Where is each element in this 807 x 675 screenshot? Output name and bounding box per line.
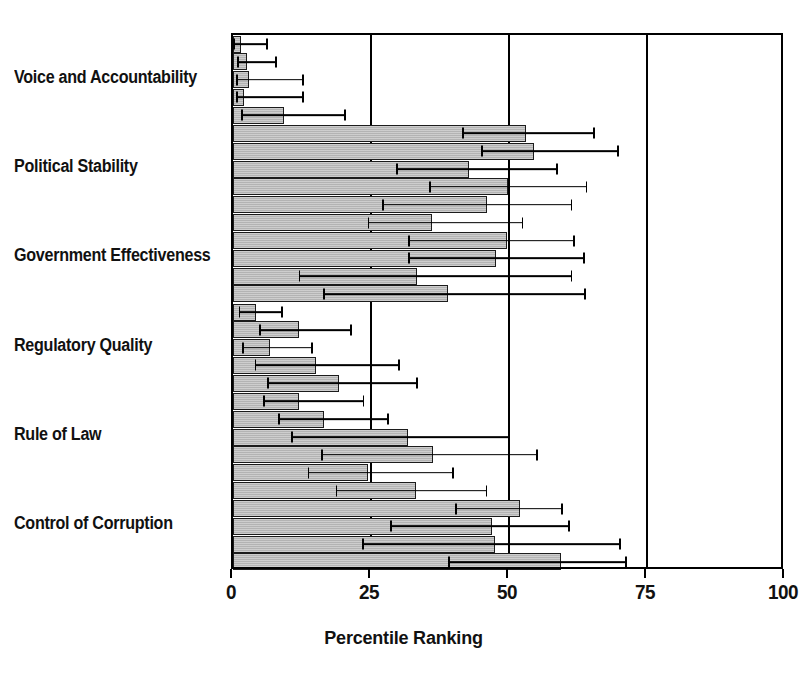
bar-row	[233, 214, 785, 231]
error-bar-cap-high	[302, 92, 304, 103]
error-bar-cap-high	[363, 396, 365, 407]
error-bar-cap-high	[556, 164, 558, 175]
error-bar-cap-high	[593, 128, 595, 139]
error-bar-cap-high	[452, 467, 454, 478]
bar-row	[233, 393, 785, 410]
x-tick-label-75: 75	[635, 580, 655, 604]
error-bar-cap-low	[278, 414, 280, 425]
error-bar-cap-high	[568, 521, 570, 532]
error-bar	[481, 150, 618, 152]
error-bar-cap-low	[396, 164, 398, 175]
bar-row	[233, 339, 785, 356]
bar-row	[233, 36, 785, 53]
error-bar	[362, 543, 621, 545]
error-bar	[323, 293, 586, 295]
error-bar-cap-low	[455, 503, 457, 514]
error-bar-cap-high	[571, 199, 573, 210]
bar-row	[233, 482, 785, 499]
error-bar	[241, 114, 345, 116]
error-bar-cap-low	[255, 360, 257, 371]
category-label-2: Government Effectiveness	[14, 245, 204, 266]
error-bar	[242, 347, 313, 349]
error-bar-cap-low	[236, 74, 238, 85]
error-bar-cap-low	[429, 181, 431, 192]
error-bar	[278, 418, 389, 420]
error-bar-cap-high	[586, 181, 588, 192]
error-bar-cap-low	[462, 128, 464, 139]
error-bar	[462, 133, 594, 135]
error-bar-cap-high	[522, 217, 524, 228]
error-bar	[299, 275, 573, 277]
error-bar-cap-high	[398, 360, 400, 371]
bar-row	[233, 196, 785, 213]
error-bar-cap-low	[362, 539, 364, 550]
category-label-0: Voice and Accountability	[14, 67, 204, 88]
plot-area	[231, 33, 783, 569]
error-bar-cap-low	[267, 378, 269, 389]
error-bar	[267, 382, 418, 384]
error-bar-cap-low	[368, 217, 370, 228]
bar-row	[233, 89, 785, 106]
error-bar-cap-high	[584, 288, 586, 299]
error-bar-cap-low	[233, 39, 235, 50]
error-bar-cap-high	[416, 378, 418, 389]
category-label-5: Control of Corruption	[14, 513, 204, 534]
error-bar-cap-low	[299, 271, 301, 282]
bar-row	[233, 268, 785, 285]
error-bar-cap-high	[266, 39, 268, 50]
error-bar	[263, 401, 364, 403]
error-bar	[236, 97, 304, 99]
bar-row	[233, 285, 785, 302]
governance-indicators-chart: Voice and AccountabilityPolitical Stabil…	[0, 0, 807, 675]
error-bar	[259, 329, 352, 331]
error-bar-cap-low	[263, 396, 265, 407]
error-bar-cap-low	[239, 307, 241, 318]
category-labels-column: Voice and AccountabilityPolitical Stabil…	[14, 0, 220, 675]
bar-row	[233, 357, 785, 374]
error-bar-cap-low	[390, 521, 392, 532]
error-bar-cap-low	[237, 56, 239, 67]
error-bar-cap-high	[387, 414, 389, 425]
error-bar	[239, 311, 283, 313]
error-bar	[429, 186, 587, 188]
bar-row	[233, 250, 785, 267]
bar-row	[233, 446, 785, 463]
error-bar-cap-high	[619, 539, 621, 550]
x-tick-75	[644, 569, 646, 578]
error-bar-cap-high	[625, 556, 627, 567]
error-bar	[382, 204, 572, 206]
category-label-4: Rule of Law	[14, 424, 204, 445]
bar-row	[233, 321, 785, 338]
error-bar	[237, 61, 276, 63]
bar-row	[233, 143, 785, 160]
category-label-3: Regulatory Quality	[14, 335, 204, 356]
x-tick-25	[368, 569, 370, 578]
x-tick-label-50: 50	[497, 580, 517, 604]
error-bar	[291, 436, 510, 438]
error-bar-cap-high	[573, 235, 575, 246]
error-bar	[390, 525, 570, 527]
bar-row	[233, 429, 785, 446]
x-tick-100	[782, 569, 784, 578]
error-bar	[455, 508, 562, 510]
bar-row	[233, 536, 785, 553]
error-bar-cap-low	[336, 485, 338, 496]
error-bar	[233, 43, 268, 45]
error-bar-cap-high	[344, 110, 346, 121]
x-tick-50	[506, 569, 508, 578]
error-bar-cap-high	[536, 449, 538, 460]
error-bar-cap-high	[486, 485, 488, 496]
error-bar-cap-low	[448, 556, 450, 567]
bar-row	[233, 518, 785, 535]
bar-row	[233, 464, 785, 481]
error-bar	[336, 490, 488, 492]
error-bar	[255, 365, 401, 367]
x-tick-0	[230, 569, 232, 578]
error-bar	[408, 257, 585, 259]
error-bar-cap-high	[617, 146, 619, 157]
error-bar	[396, 168, 558, 170]
error-bar-cap-low	[259, 324, 261, 335]
bar-row	[233, 53, 785, 70]
error-bar	[408, 240, 575, 242]
bar-row	[233, 107, 785, 124]
